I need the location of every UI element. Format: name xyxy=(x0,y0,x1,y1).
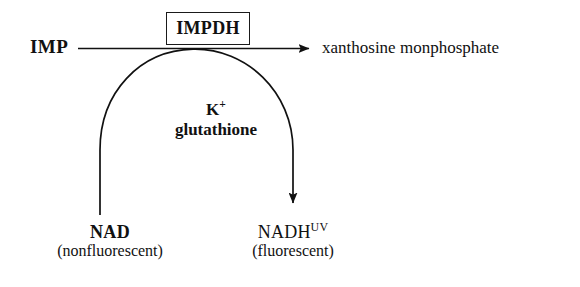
coproduct-label: NADHUV xyxy=(218,222,368,242)
coproduct-state-label: (fluorescent) xyxy=(218,242,368,260)
coproduct-superscript: UV xyxy=(311,220,329,234)
pathway-diagram: IMP IMPDH xanthosine monphosphate K+ glu… xyxy=(0,0,580,287)
cofactor-glutathione: glutathione xyxy=(150,120,282,139)
cosubstrate-group: NAD (nonfluorescent) xyxy=(35,222,185,260)
coproduct-group: NADHUV (fluorescent) xyxy=(218,222,368,260)
enzyme-label: IMPDH xyxy=(176,18,240,39)
coproduct-label-text: NADH xyxy=(258,222,311,242)
reactant-label: IMP xyxy=(30,36,68,57)
product-label: xanthosine monphosphate xyxy=(322,38,499,57)
cofactor-ion-charge: + xyxy=(219,98,226,111)
enzyme-box: IMPDH xyxy=(166,12,250,45)
cofactor-potassium-ion: K+ xyxy=(150,100,282,119)
cosubstrate-state-label: (nonfluorescent) xyxy=(35,242,185,260)
cofactor-group: K+ glutathione xyxy=(150,100,282,139)
cosubstrate-label: NAD xyxy=(35,222,185,242)
cofactor-ion-symbol: K xyxy=(206,100,219,119)
